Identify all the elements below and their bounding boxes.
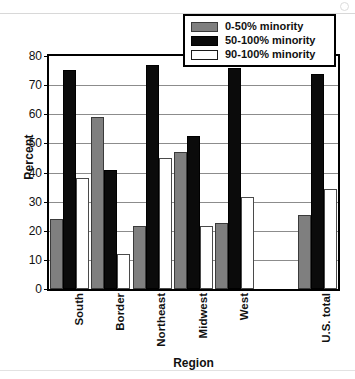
legend-swatch-icon-2 xyxy=(191,50,218,60)
x-axis-tick-label: South xyxy=(73,293,85,363)
bar xyxy=(200,226,213,289)
legend-swatch-icon-1 xyxy=(191,36,218,46)
bar xyxy=(298,215,311,289)
y-axis-tick xyxy=(44,114,49,115)
y-axis-title: Percent xyxy=(22,112,36,202)
y-axis-tick-label: 80 xyxy=(12,50,42,62)
bar xyxy=(174,152,187,289)
legend-item-2: 90-100% minority xyxy=(191,48,329,61)
y-axis-tick xyxy=(44,143,49,144)
y-axis-tick xyxy=(44,231,49,232)
bar xyxy=(241,197,254,289)
x-axis-tick-label: Northeast xyxy=(155,293,167,363)
chart-figure: 01020304050607080 Percent SouthBorderNor… xyxy=(0,0,355,379)
bar xyxy=(76,178,89,289)
x-axis-tick-label: Midwest xyxy=(197,293,209,363)
y-axis-tick xyxy=(44,173,49,174)
gridline xyxy=(49,114,338,115)
y-axis-tick xyxy=(44,289,49,290)
bar xyxy=(159,158,172,289)
x-axis-title: Region xyxy=(47,356,340,370)
x-axis-tick-label: West xyxy=(238,293,250,363)
gridline xyxy=(49,85,338,86)
scan-artifact-bottom xyxy=(0,370,355,371)
legend-item-1: 50-100% minority xyxy=(191,34,329,47)
y-axis-tick-label: 10 xyxy=(12,254,42,266)
x-axis-tick-label: U.S. total xyxy=(320,293,332,363)
y-axis-tick-label: 20 xyxy=(12,225,42,237)
y-axis-tick xyxy=(44,85,49,86)
x-axis-tick-label: Border xyxy=(114,293,126,363)
bar xyxy=(117,254,130,289)
bar xyxy=(324,189,337,289)
bar xyxy=(63,70,76,289)
legend-label-0: 0-50% minority xyxy=(225,21,303,32)
y-axis-tick xyxy=(44,260,49,261)
bar xyxy=(187,136,200,289)
x-axis-tick-labels: SouthBorderNortheastMidwestWestU.S. tota… xyxy=(47,293,340,353)
bar xyxy=(215,223,228,289)
chart-legend: 0-50% minority 50-100% minority 90-100% … xyxy=(183,14,336,67)
bar xyxy=(311,74,324,289)
legend-swatch-icon-0 xyxy=(191,22,218,32)
bar xyxy=(228,68,241,289)
bar xyxy=(50,219,63,289)
legend-item-0: 0-50% minority xyxy=(191,20,329,33)
bar xyxy=(146,65,159,289)
scan-artifact-dot xyxy=(340,2,349,11)
legend-label-2: 90-100% minority xyxy=(225,49,315,60)
y-axis-tick xyxy=(44,202,49,203)
y-axis-tick xyxy=(44,56,49,57)
y-axis-tick-label: 70 xyxy=(12,79,42,91)
plot-area xyxy=(47,54,340,291)
bar xyxy=(133,226,146,289)
y-axis-tick-label: 0 xyxy=(12,283,42,295)
bar xyxy=(91,117,104,289)
bar xyxy=(104,170,117,289)
legend-label-1: 50-100% minority xyxy=(225,35,315,46)
